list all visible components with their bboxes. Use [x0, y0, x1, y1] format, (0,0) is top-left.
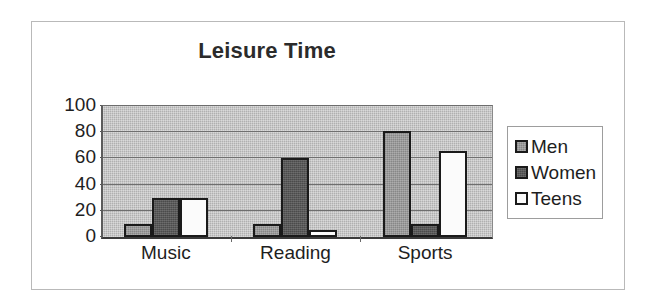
- y-axis: 020406080100: [36, 105, 96, 236]
- chart-title: Leisure Time: [32, 38, 502, 64]
- y-axis-tick-label: 100: [40, 94, 96, 116]
- y-axis-tick-label: 60: [40, 146, 96, 168]
- x-axis-tick-label: Reading: [260, 242, 331, 264]
- legend-item-teens[interactable]: Teens: [515, 185, 595, 211]
- x-axis-tick-mark: [231, 236, 232, 242]
- y-axis-tick-label: 0: [40, 225, 96, 247]
- bar-group: [233, 106, 363, 237]
- legend-swatch-icon: [515, 192, 528, 205]
- legend-label: Women: [531, 163, 596, 182]
- plot-area: [101, 105, 493, 239]
- x-axis-tick-label: Music: [141, 242, 191, 264]
- bar-group: [103, 106, 233, 237]
- chart-frame: Leisure Time 020406080100 MusicReadingSp…: [31, 21, 625, 290]
- chart-legend: MenWomenTeens: [507, 126, 603, 219]
- legend-label: Teens: [531, 189, 582, 208]
- x-axis-tick-label: Sports: [398, 242, 453, 264]
- y-axis-tick-label: 20: [40, 199, 96, 221]
- legend-item-men[interactable]: Men: [515, 133, 595, 159]
- legend-swatch-icon: [515, 166, 528, 179]
- bar-music-men: [124, 224, 152, 237]
- legend-label: Men: [531, 137, 568, 156]
- bar-reading-men: [253, 224, 281, 237]
- bar-music-women: [152, 198, 180, 237]
- legend-swatch-icon: [515, 140, 528, 153]
- bar-sports-men: [383, 131, 411, 237]
- bar-music-teens: [180, 198, 208, 237]
- y-axis-tick-label: 80: [40, 120, 96, 142]
- bar-reading-teens: [309, 230, 337, 237]
- bar-sports-women: [411, 224, 439, 237]
- y-axis-tick-label: 40: [40, 173, 96, 195]
- x-axis: MusicReadingSports: [101, 242, 490, 272]
- legend-item-women[interactable]: Women: [515, 159, 595, 185]
- bar-reading-women: [281, 158, 309, 237]
- bar-group: [362, 106, 492, 237]
- bar-sports-teens: [439, 151, 467, 237]
- x-axis-tick-mark: [360, 236, 361, 242]
